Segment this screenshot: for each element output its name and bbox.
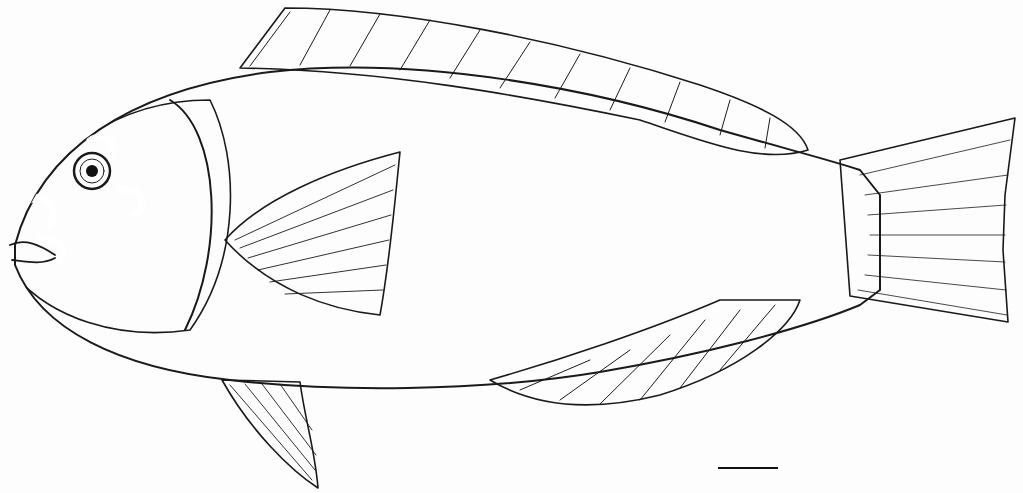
pectoral-fin bbox=[225, 152, 400, 315]
pelvic-fin bbox=[222, 380, 318, 488]
head bbox=[10, 100, 230, 333]
eye bbox=[74, 153, 110, 189]
fish-illustration bbox=[0, 0, 1023, 493]
caudal-fin bbox=[840, 118, 1015, 322]
fish-drawing bbox=[0, 0, 1023, 493]
anal-fin bbox=[490, 300, 800, 405]
dorsal-fin bbox=[240, 8, 808, 155]
mouth bbox=[10, 242, 55, 262]
scaled-body bbox=[15, 68, 880, 389]
